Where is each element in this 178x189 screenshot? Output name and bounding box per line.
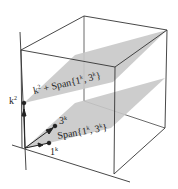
vector-b-label: 1k	[50, 146, 58, 157]
subspace-figure: k2 + Span{1k, 3k} Span{1k, 3k} k2 3k 1k	[0, 0, 178, 189]
vertical-vector-label: k2	[9, 95, 17, 106]
